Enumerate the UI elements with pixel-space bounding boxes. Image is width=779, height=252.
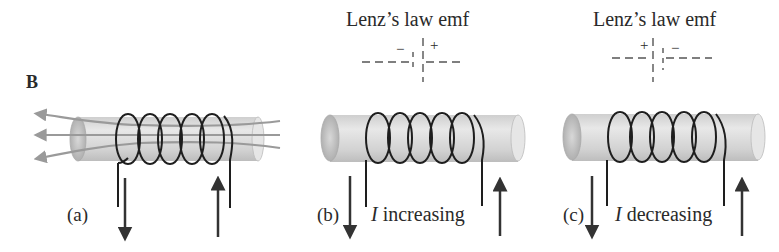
iron-rod	[563, 114, 765, 161]
panel-c	[563, 38, 765, 236]
panel-a	[40, 114, 280, 237]
iron-rod	[321, 115, 525, 162]
iron-rod	[70, 117, 264, 161]
battery-symbol	[612, 38, 712, 82]
battery-symbol	[362, 38, 465, 82]
solenoid-diagram	[0, 0, 779, 252]
panel-b	[321, 38, 525, 236]
